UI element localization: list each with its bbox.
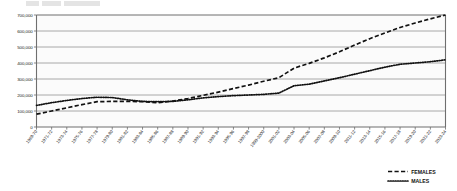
legend-label-males: MALES	[411, 178, 429, 184]
x-axis-tick-label: 2013-14	[358, 129, 372, 145]
y-axis-labels-group: 0100,000200,000300,000400,000500,000600,…	[17, 13, 33, 130]
plot-area-wrapper: 0100,000200,000300,000400,000500,000600,…	[0, 0, 457, 191]
y-axis-tick-label: 200,000	[17, 93, 33, 98]
y-axis-tick-label: 500,000	[17, 45, 33, 50]
x-axis-tick-label: 1969-70	[25, 129, 39, 145]
x-axis-tick-label: 1991-92	[191, 129, 205, 145]
y-axis-tick-label: 700,000	[17, 13, 33, 18]
plot-background	[37, 15, 446, 127]
x-axis-tick-label: 2003-04	[282, 129, 296, 145]
x-axis-tick-label: 2017-18	[388, 129, 402, 145]
x-axis-tick-label: 1975-76	[70, 129, 84, 145]
x-axis-tick-label: 1981-82	[116, 129, 130, 145]
x-axis-tick-label: 2023-24	[434, 129, 448, 145]
x-axis-labels-group: 1969-701971-721973-741975-761977-781979-…	[25, 129, 448, 148]
line-chart: 0100,000200,000300,000400,000500,000600,…	[0, 0, 457, 191]
y-axis-tick-label: 600,000	[17, 29, 33, 34]
x-axis-tick-label: 1985-86	[146, 129, 160, 145]
x-axis-tick-label: 1973-74	[55, 129, 69, 145]
legend-label-females: FEMALES	[411, 169, 436, 175]
x-axis-tick-label: 1977-78	[85, 129, 99, 145]
x-axis-tick-label: 1997-98	[237, 129, 251, 145]
y-axis-tick-label: 0	[30, 125, 33, 130]
x-axis-tick-label: 2019-20	[404, 129, 418, 145]
y-axis-tick-label: 400,000	[17, 61, 33, 66]
x-axis-tick-label: 1999-2000	[249, 129, 266, 148]
x-axis-tick-label: 1989-90	[176, 129, 190, 145]
x-axis-tick-label: 2007-08	[313, 129, 327, 145]
x-axis-tick-label: 2005-06	[298, 129, 312, 145]
x-axis-tick-label: 1983-84	[131, 129, 145, 145]
y-axis-tick-label: 100,000	[17, 109, 33, 114]
x-axis-tick-label: 1971-72	[40, 129, 54, 145]
x-axis-tick-label: 1995-96	[222, 129, 236, 145]
x-axis-tick-label: 2015-16	[373, 129, 387, 145]
legend: FEMALES MALES	[388, 169, 436, 185]
x-axis-tick-label: 2001-02	[267, 129, 281, 145]
x-axis-tick-label: 1979-80	[101, 129, 115, 145]
x-axis-tick-label: 2011-12	[343, 129, 357, 144]
x-axis-tick-label: 1993-94	[207, 129, 221, 145]
x-axis-tick-label: 1987-88	[161, 129, 175, 145]
chart-svg: 0100,000200,000300,000400,000500,000600,…	[0, 0, 457, 191]
x-axis-tick-label: 2009-10	[328, 129, 342, 145]
x-axis-tick-label: 2021-22	[419, 129, 433, 145]
y-axis-tick-label: 300,000	[17, 77, 33, 82]
